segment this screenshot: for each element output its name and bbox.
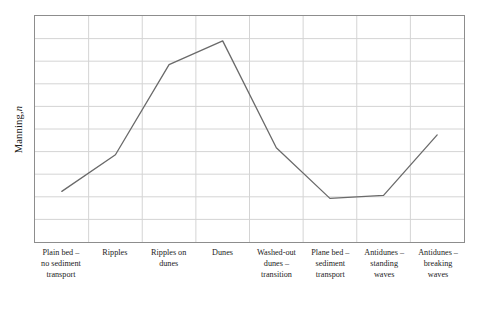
series-layer xyxy=(35,16,464,242)
x-axis-tick-label: Ripples xyxy=(88,247,142,305)
x-axis-tick-label-line: transport xyxy=(35,269,87,280)
x-axis-tick-label-line: Plane bed – xyxy=(304,247,356,258)
y-axis-title: Manning,n xyxy=(8,15,30,243)
x-axis-tick-label-line: Antidunes – xyxy=(358,247,410,258)
x-axis-tick-label-line: no sediment xyxy=(35,258,87,269)
x-axis-tick-label: Plane bed –sedimenttransport xyxy=(303,247,357,305)
y-axis-title-text: Manning,n xyxy=(14,105,25,153)
x-axis-tick-label-line: Ripples xyxy=(89,247,141,258)
y-axis-title-plain: Manning, xyxy=(14,111,25,153)
x-axis-tick-label-line: dunes – xyxy=(251,258,303,269)
data-series-line xyxy=(62,41,437,199)
x-axis-tick-label-line: waves xyxy=(412,269,464,280)
x-axis-tick-label: Dunes xyxy=(196,247,250,305)
x-axis-tick-label-line: sediment xyxy=(304,258,356,269)
x-axis-tick-label: Ripples ondunes xyxy=(142,247,196,305)
x-axis-tick-label-line: Dunes xyxy=(197,247,249,258)
x-axis-tick-label-line: waves xyxy=(358,269,410,280)
y-axis-title-symbol: n xyxy=(14,105,25,110)
x-axis-tick-label: Washed-outdunes –transition xyxy=(250,247,304,305)
x-axis-tick-label: Plain bed –no sedimenttransport xyxy=(34,247,88,305)
x-axis-tick-label: Antidunes –breakingwaves xyxy=(411,247,465,305)
x-axis-tick-label: Antidunes –standingwaves xyxy=(357,247,411,305)
plot-area xyxy=(34,15,465,243)
x-axis-tick-label-line: Ripples on xyxy=(143,247,195,258)
x-axis-labels: Plain bed –no sedimenttransportRipplesRi… xyxy=(34,247,465,305)
x-axis-tick-label-line: Plain bed – xyxy=(35,247,87,258)
x-axis-tick-label-line: Antidunes – xyxy=(412,247,464,258)
chart-figure: Manning,n Plain bed –no sedimenttranspor… xyxy=(0,0,487,309)
x-axis-tick-label-line: transport xyxy=(304,269,356,280)
x-axis-tick-label-line: dunes xyxy=(143,258,195,269)
x-axis-tick-label-line: standing xyxy=(358,258,410,269)
x-axis-tick-label-line: breaking xyxy=(412,258,464,269)
x-axis-tick-label-line: transition xyxy=(251,269,303,280)
x-axis-tick-label-line: Washed-out xyxy=(251,247,303,258)
